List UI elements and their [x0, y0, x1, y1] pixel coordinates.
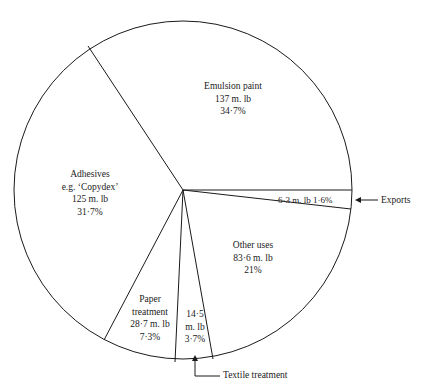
label-other-uses: Other uses 83·6 m. lb 21%: [222, 239, 284, 277]
label-paper-treatment: Paper treatment 28·7 m. lb 7·3%: [122, 293, 178, 343]
label-textile: 14·5 m. lb 3·7%: [178, 308, 212, 346]
label-emulsion-paint: Emulsion paint 137 m. lb 34·7%: [185, 80, 281, 118]
label-textile-callout: Textile treatment: [223, 369, 288, 382]
label-exports-inner: 6·3 m. lb 1·6%: [278, 194, 333, 207]
textile-arrow-line: [195, 358, 220, 376]
label-exports-callout: Exports: [381, 194, 411, 207]
label-adhesives: Adhesives e.g. ‘Copydex’ 125 m. lb 31·7%: [52, 168, 128, 218]
exports-arrowhead-icon: [355, 197, 361, 203]
